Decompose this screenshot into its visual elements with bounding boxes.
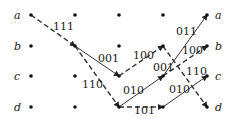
edge-label-100-b: 100: [182, 44, 203, 57]
edge-label-110-a: 110: [82, 78, 103, 91]
edge-label-101: 101: [134, 104, 155, 117]
left-label-d: d: [14, 101, 21, 114]
right-label-a: a: [215, 9, 222, 22]
right-label-b: b: [215, 40, 222, 53]
right-label-d: d: [215, 101, 222, 114]
edge-label-010-a: 010: [123, 84, 144, 97]
edge-label-100-a: 100: [133, 49, 154, 62]
edge-label-010-b: 010: [169, 83, 190, 96]
edge-label-110-b: 110: [186, 65, 207, 78]
edge-label-001-b: 001: [153, 61, 174, 74]
edge-label-111: 111: [53, 20, 74, 33]
edge-label-001-a: 001: [98, 52, 119, 65]
right-label-c: c: [215, 70, 221, 83]
left-label-b: b: [14, 40, 21, 53]
edge-label-011: 011: [176, 25, 197, 38]
left-label-c: c: [14, 70, 20, 83]
left-label-a: a: [14, 9, 21, 22]
trellis-diagram: a b c d a b c d 111 001 110 100 010 101 …: [0, 0, 234, 122]
